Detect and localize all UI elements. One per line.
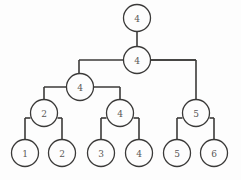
node-level3-2-label: 2: [41, 109, 47, 119]
leaf-node-6-label: 6: [211, 149, 217, 159]
leaf-node-2-label: 2: [59, 149, 65, 159]
leaf-node-5-label: 5: [174, 149, 180, 159]
node-level3-5[interactable]: 5: [183, 100, 210, 127]
leaf-node-2[interactable]: 2: [49, 140, 76, 167]
leaf-node-4[interactable]: 4: [126, 140, 153, 167]
node-root-4[interactable]: 4: [124, 5, 151, 32]
tree-diagram: 444245123456: [0, 0, 241, 180]
leaf-node-1-label: 1: [22, 149, 28, 159]
node-level3-2[interactable]: 2: [31, 100, 58, 127]
leaf-node-5[interactable]: 5: [164, 140, 191, 167]
node-level3-4-label: 4: [117, 109, 123, 119]
leaf-node-1[interactable]: 1: [12, 140, 39, 167]
leaf-node-4-label: 4: [136, 149, 142, 159]
node-level3-4[interactable]: 4: [107, 100, 134, 127]
node-level1-4[interactable]: 4: [124, 47, 151, 74]
node-level1-4-label: 4: [134, 56, 140, 66]
node-root-4-label: 4: [134, 14, 140, 24]
tree-diagram-canvas: 444245123456: [0, 0, 241, 180]
leaf-node-3[interactable]: 3: [88, 140, 115, 167]
node-level2-left-4[interactable]: 4: [67, 74, 94, 101]
leaf-node-3-label: 3: [98, 149, 104, 159]
node-level2-left-4-label: 4: [77, 83, 83, 93]
node-level3-5-label: 5: [193, 109, 199, 119]
leaf-node-6[interactable]: 6: [201, 140, 228, 167]
nodes-group: 444245123456: [12, 5, 228, 167]
